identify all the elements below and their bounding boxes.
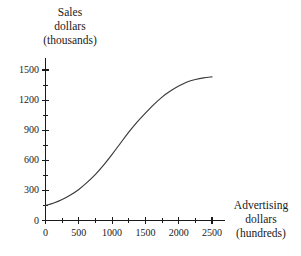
x-axis-tick-label: 2500: [192, 228, 232, 238]
y-axis-tick-label: 600: [5, 155, 39, 165]
chart-figure: Sales dollars (thousands) Advertising do…: [0, 0, 301, 256]
plot-area: [0, 0, 301, 256]
y-axis-tick-label: 300: [5, 185, 39, 195]
y-axis-tick-label: 900: [5, 125, 39, 135]
y-axis-tick-label: 1500: [5, 65, 39, 75]
y-axis-tick-label: 0: [5, 216, 39, 226]
data-curve: [46, 77, 213, 206]
y-axis-tick-label: 1200: [5, 95, 39, 105]
